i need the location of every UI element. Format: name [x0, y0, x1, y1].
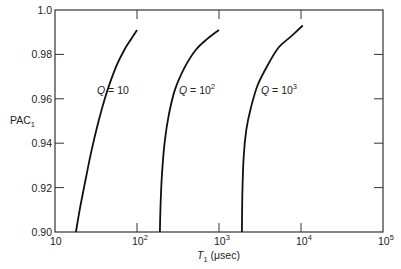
y-tick-label: 0.96 — [32, 93, 53, 105]
y-axis-label: PAC1 — [10, 114, 35, 129]
curve-label-2: Q = 102 — [179, 82, 215, 96]
y-tick-label: 0.98 — [32, 48, 53, 60]
x-tick-label: 102 — [132, 233, 148, 247]
y-tick-label: 0.94 — [32, 137, 53, 149]
y-tick-label: 1.0 — [37, 4, 52, 16]
y-tick-label: 0.92 — [32, 182, 53, 194]
x-tick-label: 105 — [378, 233, 394, 247]
x-axis-label: T1 (μsec) — [197, 249, 240, 264]
curve-q-3 — [242, 26, 303, 233]
x-axis-ticks: 10102103104105 — [50, 10, 394, 247]
curves — [76, 26, 303, 233]
x-tick-label: 103 — [214, 233, 230, 247]
curve-label-1: Q = 10 — [97, 84, 129, 96]
curve-label-3: Q = 103 — [261, 82, 297, 96]
plot-frame — [55, 10, 383, 232]
curve-labels: Q = 10Q = 102Q = 103 — [97, 82, 297, 96]
pac-vs-t1-chart: 0.900.920.940.960.981.0 10102103104105 Q… — [0, 0, 401, 269]
x-tick-label: 10 — [50, 235, 62, 247]
curve-q-2 — [160, 30, 219, 232]
x-tick-label: 104 — [296, 233, 312, 247]
curve-q-1 — [76, 30, 137, 232]
